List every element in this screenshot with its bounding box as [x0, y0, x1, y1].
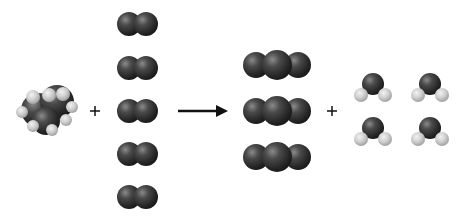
propane-molecule — [16, 85, 78, 136]
reaction-arrow-icon — [178, 105, 228, 117]
carbon-dioxide-molecule — [243, 142, 311, 172]
reaction-diagram — [0, 0, 461, 222]
water-molecule — [411, 117, 449, 146]
carbon-dioxide-molecule — [243, 96, 311, 126]
carbon-dioxide-molecule — [243, 50, 311, 80]
oxygen-molecule — [117, 12, 158, 36]
water-molecule — [411, 73, 449, 102]
carbon-dioxide-molecules — [243, 50, 311, 172]
water-molecule — [354, 73, 392, 102]
oxygen-molecule — [117, 185, 158, 209]
oxygen-molecule — [117, 142, 158, 166]
oxygen-molecules — [117, 12, 158, 209]
water-molecules — [354, 73, 449, 146]
water-molecule — [354, 117, 392, 146]
oxygen-molecule — [117, 56, 158, 80]
plus-sign — [327, 106, 337, 116]
oxygen-molecule — [117, 99, 158, 123]
plus-sign — [90, 106, 100, 116]
